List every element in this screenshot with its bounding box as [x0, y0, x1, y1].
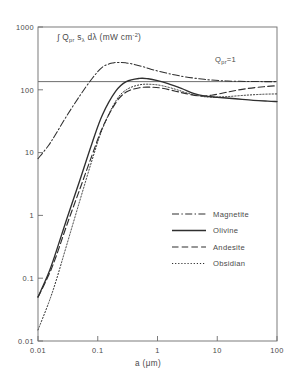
y-axis-title-mid: s [75, 32, 82, 42]
legend-label-olivine: Olivine [213, 226, 238, 235]
y-tick-label: 1000 [16, 23, 34, 32]
figure-container: 0.010.11101001000 0.010.1110100 ∫ Qpr sλ… [0, 0, 295, 379]
x-tick-label: 1 [155, 346, 160, 355]
legend-label-andesite: Andesite [213, 243, 245, 252]
x-tick-label: 100 [270, 346, 284, 355]
y-axis-title-mid2: dλ (mW cm [85, 32, 133, 42]
chart-svg: 0.010.11101001000 0.010.1110100 ∫ Qpr sλ… [0, 0, 295, 379]
plot-frame [38, 27, 277, 341]
y-axis-title-end: ) [138, 32, 141, 42]
y-tick-label: 10 [25, 148, 34, 157]
series-line-magnetite [38, 62, 277, 158]
x-tick-label: 0.01 [30, 346, 46, 355]
y-tick-label: 100 [20, 86, 34, 95]
data-curves [38, 62, 277, 330]
y-axis-ticks: 0.010.11101001000 [16, 23, 43, 346]
y-axis-title: ∫ Qpr sλ dλ (mW cm-2) [56, 32, 141, 43]
x-tick-label: 0.1 [92, 346, 103, 355]
y-tick-label: 0.1 [23, 274, 34, 283]
y-tick-label: 0.01 [18, 337, 34, 346]
x-axis-ticks: 0.010.1110100 [30, 336, 284, 355]
legend: MagnetiteOlivineAndesiteObsidian [172, 210, 249, 269]
qpr-annotation: Qpr=1 [215, 55, 236, 65]
legend-label-magnetite: Magnetite [213, 210, 249, 219]
y-axis-title-main: ∫ Q [56, 32, 69, 42]
x-axis-title: a (μm) [135, 359, 161, 368]
legend-label-obsidian: Obsidian [213, 259, 245, 268]
y-tick-label: 1 [29, 211, 34, 220]
x-tick-label: 10 [213, 346, 222, 355]
qpr-annotation-end: =1 [227, 55, 236, 64]
